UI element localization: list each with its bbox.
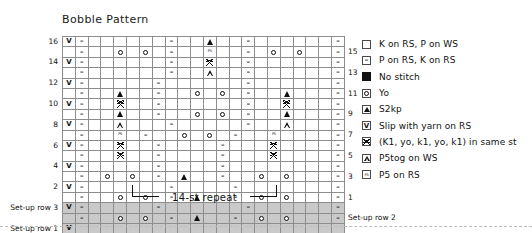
stitch-cell bbox=[306, 57, 319, 67]
symbol-k-icon bbox=[63, 151, 75, 160]
symbol-yo-icon bbox=[217, 110, 229, 119]
stitch-cell bbox=[127, 68, 140, 78]
stitch-cell bbox=[178, 78, 191, 88]
stitch-cell bbox=[332, 99, 345, 109]
stitch-cell bbox=[216, 47, 229, 57]
symbol-p-icon bbox=[76, 110, 88, 119]
stitch-cell bbox=[152, 151, 165, 161]
stitch-cell bbox=[75, 203, 88, 213]
symbol-v-icon bbox=[63, 58, 75, 67]
stitch-cell bbox=[101, 203, 114, 213]
stitch-cell bbox=[293, 68, 306, 78]
stitch-cell bbox=[88, 120, 101, 130]
stitch-cell bbox=[216, 88, 229, 98]
stitch-cell bbox=[114, 99, 127, 109]
symbol-ns-icon bbox=[89, 141, 101, 150]
stitch-cell bbox=[165, 57, 178, 67]
stitch-cell bbox=[203, 68, 216, 78]
symbol-k-icon bbox=[63, 68, 75, 77]
stitch-cell bbox=[203, 151, 216, 161]
symbol-p-icon bbox=[217, 151, 229, 160]
stitch-cell bbox=[191, 161, 204, 171]
symbol-k-icon bbox=[294, 99, 306, 108]
footer-divider bbox=[0, 226, 532, 227]
stitch-cell bbox=[332, 151, 345, 161]
stitch-cell bbox=[63, 224, 76, 233]
symbol-k-icon bbox=[63, 89, 75, 98]
stitch-cell bbox=[306, 224, 319, 233]
symbol-k-icon bbox=[166, 151, 178, 160]
stitch-cell bbox=[165, 78, 178, 88]
stitch-cell bbox=[101, 78, 114, 88]
symbol-k-icon bbox=[294, 141, 306, 150]
symbol-ns-icon bbox=[319, 172, 331, 181]
symbol-k-icon bbox=[166, 162, 178, 171]
stitch-cell bbox=[101, 68, 114, 78]
stitch-cell bbox=[319, 109, 332, 119]
symbol-ns-icon bbox=[306, 131, 318, 140]
stitch-cell bbox=[332, 47, 345, 57]
stitch-cell bbox=[191, 120, 204, 130]
stitch-cell bbox=[203, 224, 216, 233]
stitch-cell bbox=[191, 140, 204, 150]
stitch-cell bbox=[203, 78, 216, 88]
stitch-cell bbox=[101, 88, 114, 98]
chart-row bbox=[63, 37, 345, 47]
stitch-cell bbox=[165, 88, 178, 98]
stitch-cell bbox=[268, 161, 281, 171]
stitch-cell bbox=[191, 213, 204, 223]
stitch-cell bbox=[203, 47, 216, 57]
symbol-k-icon bbox=[191, 131, 203, 140]
symbol-p-icon bbox=[153, 110, 165, 119]
symbol-k-icon bbox=[204, 172, 216, 181]
symbol-k-icon bbox=[230, 79, 242, 88]
symbol-k-icon bbox=[140, 79, 152, 88]
symbol-k-icon bbox=[294, 58, 306, 67]
stitch-cell bbox=[191, 68, 204, 78]
stitch-cell bbox=[101, 182, 114, 192]
symbol-ns-icon bbox=[319, 58, 331, 67]
stitch-cell bbox=[127, 109, 140, 119]
legend-symbol-glyph bbox=[363, 138, 370, 145]
stitch-cell bbox=[165, 37, 178, 47]
symbol-p-icon bbox=[76, 214, 88, 223]
stitch-cell bbox=[63, 161, 76, 171]
stitch-cell bbox=[114, 161, 127, 171]
stitch-cell bbox=[268, 57, 281, 67]
stitch-cell bbox=[319, 203, 332, 213]
stitch-cell bbox=[139, 213, 152, 223]
symbol-p-icon bbox=[76, 193, 88, 202]
legend-label: No stitch bbox=[379, 72, 420, 82]
symbol-p-icon bbox=[76, 182, 88, 191]
symbol-k-icon bbox=[127, 131, 139, 140]
symbol-k-icon bbox=[255, 131, 267, 140]
symbol-ns-icon bbox=[89, 110, 101, 119]
symbol-ns-icon bbox=[89, 182, 101, 191]
dash-icon bbox=[362, 56, 371, 65]
legend-label: Yo bbox=[379, 88, 389, 98]
stitch-cell bbox=[268, 224, 281, 233]
stitch-cell bbox=[88, 68, 101, 78]
symbol-ns-icon bbox=[230, 141, 242, 150]
stitch-cell bbox=[101, 140, 114, 150]
stitch-cell bbox=[191, 88, 204, 98]
symbol-p-icon bbox=[76, 58, 88, 67]
symbol-ns-icon bbox=[89, 151, 101, 160]
legend-label: (K1, yo, k1, yo, k1) in same st bbox=[379, 137, 517, 147]
stitch-cell bbox=[280, 47, 293, 57]
legend-item: K on RS, P on WS bbox=[362, 36, 532, 52]
symbol-p-icon bbox=[332, 47, 344, 56]
symbol-k-icon bbox=[63, 214, 75, 223]
symbol-k-icon bbox=[204, 120, 216, 129]
symbol-yo-icon bbox=[114, 214, 126, 223]
symbol-p-icon bbox=[332, 162, 344, 171]
symbol-ns-icon bbox=[89, 47, 101, 56]
symbol-k-icon bbox=[140, 110, 152, 119]
stitch-cell bbox=[152, 172, 165, 182]
stitch-cell bbox=[229, 88, 242, 98]
stitch-cell bbox=[75, 182, 88, 192]
symbol-k-icon bbox=[242, 172, 254, 181]
stitch-cell bbox=[268, 213, 281, 223]
symbol-k-icon bbox=[294, 68, 306, 77]
symbol-k-icon bbox=[178, 37, 190, 46]
